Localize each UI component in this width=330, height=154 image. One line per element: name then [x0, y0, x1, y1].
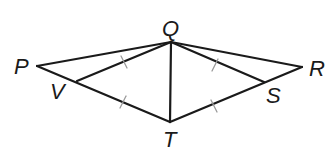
label-Q: Q — [162, 16, 179, 41]
label-S: S — [266, 83, 281, 108]
segment-PQ — [37, 42, 171, 66]
segment-RT — [170, 67, 302, 122]
segment-QS — [171, 42, 264, 82]
segment-QT — [170, 42, 171, 122]
label-V: V — [50, 79, 67, 104]
label-P: P — [14, 54, 29, 79]
geometry-diagram: P Q R T V S — [0, 0, 330, 154]
segment-QR — [171, 42, 302, 67]
label-T: T — [163, 127, 178, 152]
diagram-svg: P Q R T V S — [0, 0, 330, 154]
label-R: R — [309, 56, 325, 81]
